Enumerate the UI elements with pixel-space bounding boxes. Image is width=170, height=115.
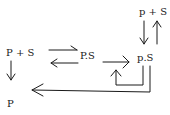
up-arrow-icon <box>153 21 161 44</box>
right-arrow-icon <box>103 56 129 68</box>
down-arrow-icon <box>140 21 148 44</box>
right-arrow-icon <box>49 46 77 50</box>
feedback-loop-arrow-icon <box>111 66 143 85</box>
reaction-arrows <box>0 0 170 115</box>
left-arrow-icon <box>51 59 78 67</box>
down-arrow-icon <box>7 61 15 80</box>
return-arrow-icon <box>32 66 150 96</box>
